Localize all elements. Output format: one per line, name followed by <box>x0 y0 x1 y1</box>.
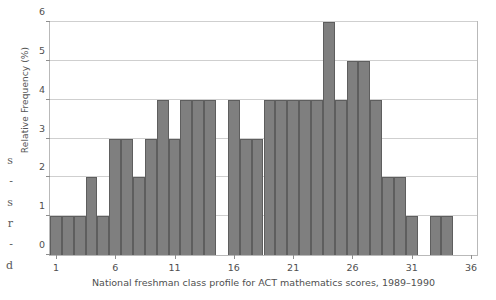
histogram-bar <box>121 139 133 256</box>
x-tick-label: 1 <box>53 262 59 273</box>
x-tick-mark <box>471 255 472 259</box>
histogram-bar <box>335 100 347 255</box>
x-tick-label: 26 <box>346 262 358 273</box>
x-tick-label: 36 <box>465 262 477 273</box>
y-tick-label: 2 <box>39 161 45 172</box>
y-axis-label: Relative Frequency (%) <box>20 30 30 170</box>
y-tick-label: 5 <box>39 44 45 55</box>
figure-caption: National freshman class profile for ACT … <box>49 277 478 288</box>
histogram-bar <box>394 177 406 255</box>
histogram-bar <box>287 100 299 255</box>
y-tick-label: 6 <box>39 6 45 17</box>
histogram-bar <box>406 216 418 255</box>
histogram-bar <box>74 216 86 255</box>
plot-area: 012345616111621263136 <box>49 21 478 256</box>
histogram-bar <box>347 61 359 255</box>
histogram-bar <box>430 216 442 255</box>
x-tick-mark <box>56 255 57 259</box>
histogram-bar <box>192 100 204 255</box>
histogram-bar <box>228 100 240 255</box>
y-tick-label: 1 <box>39 200 45 211</box>
histogram-bar <box>133 177 145 255</box>
histogram-bar <box>145 139 157 256</box>
y-tick-label: 3 <box>39 122 45 133</box>
histogram-bar <box>97 216 109 255</box>
histogram-bar <box>299 100 311 255</box>
histogram-bar <box>240 139 252 256</box>
x-tick-label: 16 <box>228 262 240 273</box>
histogram-bar <box>358 61 370 255</box>
histogram-bar <box>264 100 276 255</box>
histogram-bar <box>180 100 192 255</box>
x-tick-mark <box>352 255 353 259</box>
histogram-bar <box>109 139 121 256</box>
histogram-bar <box>62 216 74 255</box>
histogram-bar <box>370 100 382 255</box>
histogram-bar <box>311 100 323 255</box>
x-tick-mark <box>293 255 294 259</box>
histogram-bar <box>86 177 98 255</box>
histogram-bar <box>275 100 287 255</box>
x-tick-mark <box>115 255 116 259</box>
histogram-bar <box>252 139 264 256</box>
histogram-bar <box>50 216 62 255</box>
histogram-bar <box>204 100 216 255</box>
x-tick-label: 11 <box>168 262 180 273</box>
histogram-bar <box>382 177 394 255</box>
y-tick-label: 4 <box>39 83 45 94</box>
x-tick-mark <box>234 255 235 259</box>
x-tick-label: 6 <box>112 262 118 273</box>
x-tick-mark <box>175 255 176 259</box>
histogram-bar <box>169 139 181 256</box>
x-tick-mark <box>412 255 413 259</box>
figure-histogram: Relative Frequency (%) 01234561611162126… <box>0 0 496 300</box>
bars-layer <box>50 22 477 255</box>
x-tick-label: 21 <box>287 262 299 273</box>
y-tick-label: 0 <box>39 239 45 250</box>
histogram-bar <box>441 216 453 255</box>
histogram-bar <box>157 100 169 255</box>
x-tick-label: 31 <box>406 262 418 273</box>
histogram-bar <box>323 22 335 255</box>
